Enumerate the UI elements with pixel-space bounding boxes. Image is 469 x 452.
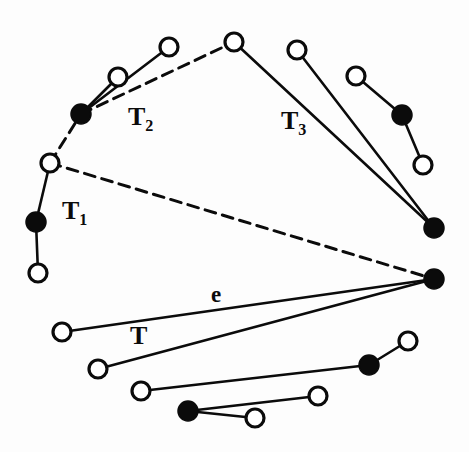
label-t3-text: T bbox=[281, 106, 298, 135]
node-open[interactable] bbox=[29, 264, 47, 282]
node-filled[interactable] bbox=[359, 355, 379, 375]
label-t3: T3 bbox=[281, 108, 306, 138]
solid-edge bbox=[141, 365, 369, 391]
node-filled[interactable] bbox=[178, 401, 198, 421]
label-t1: T1 bbox=[62, 198, 87, 228]
figure-canvas: T1T2T3eT bbox=[0, 0, 469, 452]
label-t: T bbox=[130, 323, 147, 349]
node-filled[interactable] bbox=[26, 212, 46, 232]
solid-edge bbox=[62, 279, 434, 332]
label-t2-subscript: 2 bbox=[145, 117, 153, 134]
label-t2: T2 bbox=[128, 104, 153, 134]
dashed-edge bbox=[50, 163, 434, 279]
node-open[interactable] bbox=[53, 323, 71, 341]
node-open[interactable] bbox=[225, 33, 243, 51]
node-open[interactable] bbox=[309, 387, 327, 405]
label-t-text: T bbox=[130, 321, 147, 350]
node-open[interactable] bbox=[347, 67, 365, 85]
label-t2-text: T bbox=[128, 102, 145, 131]
node-open[interactable] bbox=[109, 68, 127, 86]
node-filled[interactable] bbox=[424, 218, 444, 238]
node-open[interactable] bbox=[89, 360, 107, 378]
node-open[interactable] bbox=[246, 409, 264, 427]
node-open[interactable] bbox=[399, 332, 417, 350]
node-open[interactable] bbox=[132, 382, 150, 400]
label-t3-subscript: 3 bbox=[298, 121, 306, 138]
node-open[interactable] bbox=[41, 154, 59, 172]
solid-edge bbox=[234, 42, 434, 228]
node-filled[interactable] bbox=[424, 269, 444, 289]
node-group bbox=[26, 33, 444, 427]
label-e-text: e bbox=[211, 282, 221, 307]
dashed-edge bbox=[81, 42, 234, 114]
node-open[interactable] bbox=[288, 41, 306, 59]
node-filled[interactable] bbox=[71, 104, 91, 124]
label-t1-subscript: 1 bbox=[79, 211, 87, 228]
label-t1-text: T bbox=[62, 196, 79, 225]
label-e: e bbox=[211, 283, 221, 306]
node-open[interactable] bbox=[414, 156, 432, 174]
node-filled[interactable] bbox=[392, 105, 412, 125]
node-open[interactable] bbox=[160, 38, 178, 56]
